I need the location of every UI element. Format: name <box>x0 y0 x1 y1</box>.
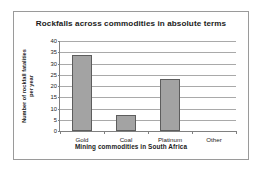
x-tick-mark <box>148 131 149 134</box>
plot-area: 4035302520151050 GoldCoalPlatinumOther <box>59 41 236 132</box>
x-tick-mark <box>236 131 237 134</box>
bar-gold <box>72 55 91 132</box>
x-axis-title: Mining commodities in South Africa <box>14 143 248 150</box>
y-axis-title-line-2: per year <box>28 38 35 134</box>
bar-series <box>60 41 236 131</box>
y-axis-title: Number of rockfall fatalities per year <box>21 38 35 134</box>
chart-figure: Rockfalls across commodities in absolute… <box>13 11 249 160</box>
y-tick-label: 10 <box>51 106 57 112</box>
x-tick-mark <box>104 131 105 134</box>
y-tick-label: 0 <box>54 128 57 134</box>
y-tick-label: 5 <box>54 117 57 123</box>
bar-coal <box>116 115 135 131</box>
y-tick-label: 40 <box>51 38 57 44</box>
x-tick-mark <box>60 131 61 134</box>
y-tick-label: 30 <box>51 61 57 67</box>
y-axis-title-line-1: Number of rockfall fatalities <box>21 49 27 123</box>
x-tick-mark <box>192 131 193 134</box>
y-tick-label: 15 <box>51 94 57 100</box>
y-tick-label: 35 <box>51 49 57 55</box>
bar-platinum <box>160 79 179 131</box>
y-tick-label: 25 <box>51 72 57 78</box>
y-tick-label: 20 <box>51 83 57 89</box>
chart-title: Rockfalls across commodities in absolute… <box>14 19 248 29</box>
